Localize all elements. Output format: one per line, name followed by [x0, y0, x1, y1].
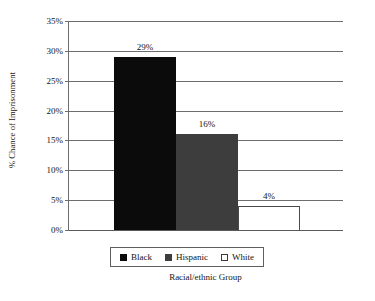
legend-swatch-icon — [120, 254, 127, 261]
y-axis-tick-label: 15% — [47, 136, 64, 145]
y-axis-tick-label: 20% — [47, 106, 64, 115]
plot-area: 29%16%4% — [68, 21, 343, 230]
bar-white[interactable] — [238, 206, 300, 230]
legend-swatch-icon — [221, 254, 228, 261]
y-axis-title-text: % Chance of Imprisonment — [7, 72, 17, 168]
legend-item-hispanic[interactable]: Hispanic — [165, 253, 208, 262]
legend-label: Hispanic — [176, 253, 208, 262]
bar-value-label: 4% — [263, 192, 275, 201]
chart-legend: BlackHispanicWhite — [110, 247, 264, 267]
y-axis-tick-label: 35% — [47, 17, 64, 26]
legend-label: Black — [131, 253, 152, 262]
bar-hispanic[interactable] — [176, 134, 238, 230]
legend-item-white[interactable]: White — [221, 253, 254, 262]
y-axis-tick-mark — [65, 230, 69, 231]
bar-value-label: 29% — [137, 43, 154, 52]
bar-value-label: 16% — [199, 120, 216, 129]
y-axis-title: % Chance of Imprisonment — [0, 0, 24, 240]
legend-swatch-icon — [165, 254, 172, 261]
gridline — [69, 230, 343, 231]
y-axis-tick-label: 0% — [51, 226, 63, 235]
y-axis-tick-label: 25% — [47, 76, 64, 85]
bar-chart-figure: % Chance of Imprisonment 0%5%10%15%20%25… — [0, 0, 375, 301]
bar-black[interactable] — [114, 57, 176, 230]
y-axis-tick-labels: 0%5%10%15%20%25%30%35% — [24, 15, 68, 230]
x-axis-title: Racial/ethnic Group — [68, 272, 343, 282]
y-axis-tick-label: 5% — [51, 196, 63, 205]
bar-series: 29%16%4% — [69, 21, 343, 230]
y-axis-tick-label: 10% — [47, 166, 64, 175]
y-axis-tick-label: 30% — [47, 46, 64, 55]
legend-label: White — [232, 253, 254, 262]
legend-item-black[interactable]: Black — [120, 253, 152, 262]
